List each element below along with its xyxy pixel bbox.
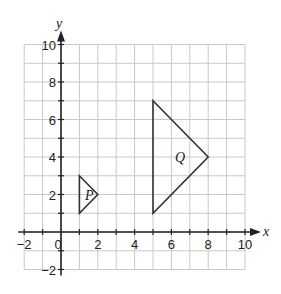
y-tick-label: 2 — [49, 188, 56, 203]
y-tick-label: 4 — [49, 150, 56, 165]
x-tick-label: 0 — [54, 237, 61, 252]
y-tick-label: 10 — [42, 38, 56, 53]
coordinate-grid-figure: xy −20246810−2246810 PQ — [0, 0, 281, 294]
x-tick-label: 6 — [168, 237, 175, 252]
triangle-label-p: P — [84, 188, 94, 203]
x-tick-label: 8 — [205, 237, 212, 252]
y-tick-label: 6 — [49, 113, 56, 128]
x-axis-arrow-icon — [250, 228, 261, 236]
y-axis-label: y — [54, 16, 63, 31]
x-axis-label: x — [262, 224, 270, 239]
triangle-label-q: Q — [175, 150, 185, 165]
x-tick-label: −2 — [17, 237, 32, 252]
y-tick-label: −2 — [41, 263, 56, 278]
x-tick-label: 2 — [94, 237, 101, 252]
coordinate-plane: xy −20246810−2246810 PQ — [0, 0, 281, 294]
x-tick-label: 10 — [238, 237, 252, 252]
y-axis-arrow-icon — [57, 31, 65, 42]
grid-lines — [24, 45, 245, 270]
x-tick-label: 4 — [131, 237, 138, 252]
y-tick-label: 8 — [49, 75, 56, 90]
